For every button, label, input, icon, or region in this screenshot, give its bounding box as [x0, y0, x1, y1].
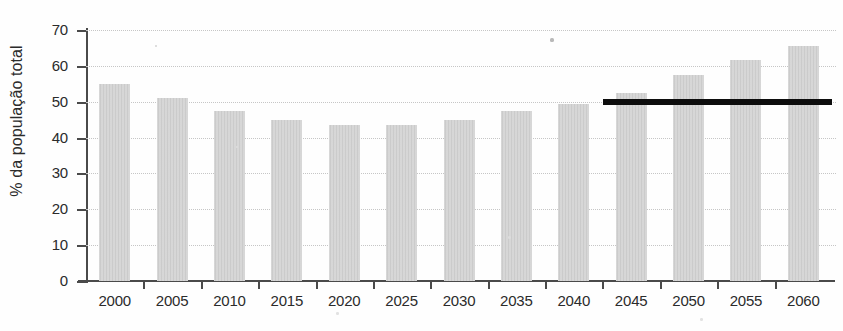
x-tick-2040: [545, 281, 547, 289]
bar-2060: [788, 46, 819, 281]
scan-speck: [550, 38, 554, 42]
y-tick-50: [77, 102, 86, 104]
x-tick-label-2015: 2015: [257, 292, 317, 309]
x-tick-label-2040: 2040: [544, 292, 604, 309]
plot-area: [86, 30, 832, 281]
bar-2025: [386, 125, 417, 281]
x-tick-label-2010: 2010: [199, 292, 259, 309]
y-tick-30: [77, 173, 86, 175]
bar-2005: [157, 98, 188, 281]
x-tick-label-2050: 2050: [659, 292, 719, 309]
x-tick-2005: [143, 281, 145, 289]
y-tick-60: [77, 66, 86, 68]
scan-speck: [155, 45, 157, 47]
x-tick-label-2000: 2000: [85, 292, 145, 309]
y-tick-20: [77, 209, 86, 211]
bar-2030: [444, 120, 475, 281]
bar-2035: [501, 111, 532, 281]
y-tick-label-10: 10: [34, 236, 68, 253]
scan-speck: [700, 318, 703, 321]
bar-2015: [271, 120, 302, 281]
bar-2045: [616, 93, 647, 281]
y-tick-10: [77, 245, 86, 247]
y-tick-label-60: 60: [34, 57, 68, 74]
y-tick-label-30: 30: [34, 164, 68, 181]
x-tick-2060: [775, 281, 777, 289]
x-tick-2030: [430, 281, 432, 289]
bar-2040: [558, 104, 589, 281]
scan-speck: [508, 236, 511, 239]
x-tick-2045: [602, 281, 604, 289]
y-axis-title: % da população total: [8, 0, 26, 246]
y-tick-0: [77, 281, 86, 283]
x-tick-2035: [488, 281, 490, 289]
scan-speck: [236, 146, 238, 148]
x-tick-2015: [258, 281, 260, 289]
reference-line-50: [603, 99, 832, 105]
x-tick-label-2020: 2020: [314, 292, 374, 309]
x-tick-label-2060: 2060: [773, 292, 833, 309]
x-tick-label-2055: 2055: [716, 292, 776, 309]
gridline-70: [86, 30, 836, 31]
x-tick-2050: [660, 281, 662, 289]
x-tick-2010: [201, 281, 203, 289]
y-tick-label-70: 70: [34, 21, 68, 38]
scan-speck: [336, 312, 339, 315]
y-tick-label-0: 0: [34, 272, 68, 289]
x-tick-2055: [717, 281, 719, 289]
y-tick-label-50: 50: [34, 93, 68, 110]
bar-2050: [673, 75, 704, 281]
x-tick-2025: [373, 281, 375, 289]
x-tick-label-2030: 2030: [429, 292, 489, 309]
bar-2010: [214, 111, 245, 281]
gridline-60: [86, 66, 836, 67]
x-tick-2020: [316, 281, 318, 289]
y-tick-70: [77, 30, 86, 32]
y-tick-label-20: 20: [34, 200, 68, 217]
y-tick-40: [77, 138, 86, 140]
bar-2020: [329, 125, 360, 281]
bar-2055: [730, 60, 761, 281]
chart-figure: % da população total 010203040506070 200…: [0, 0, 843, 331]
x-tick-label-2045: 2045: [601, 292, 661, 309]
x-tick-label-2005: 2005: [142, 292, 202, 309]
bar-2000: [99, 84, 130, 281]
x-tick-label-2025: 2025: [372, 292, 432, 309]
x-tick-label-2035: 2035: [486, 292, 546, 309]
y-tick-label-40: 40: [34, 129, 68, 146]
